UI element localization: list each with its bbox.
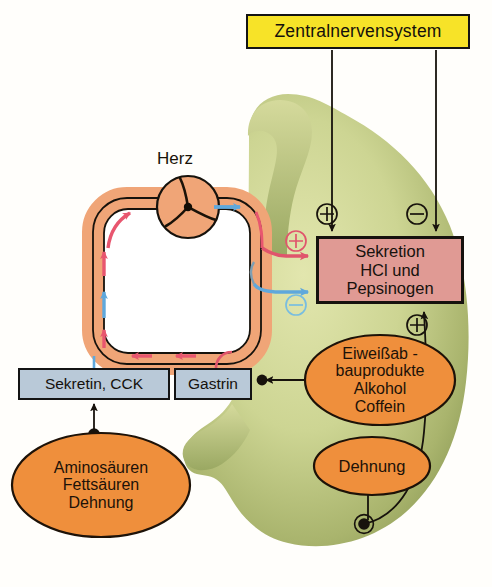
ellipse-eiweissabbau — [305, 335, 455, 425]
gastrin-label: Gastrin — [188, 375, 238, 393]
secretion-line-2: HCl und — [360, 261, 420, 279]
ellipse-dehnung — [314, 437, 430, 495]
cns-box[interactable]: Zentralnervensystem — [246, 14, 470, 49]
heart-symbol — [157, 176, 219, 238]
sign-cns-plus — [317, 204, 337, 224]
secretion-box[interactable]: Sekretion HCl und Pepsinogen — [316, 236, 464, 304]
sekretin-cck-box[interactable]: Sekretin, CCK — [18, 368, 170, 400]
cns-label: Zentralnervensystem — [274, 21, 441, 42]
ellipse-aminosaeuren — [12, 433, 190, 537]
secretion-line-3: Pepsinogen — [346, 279, 433, 297]
secretion-line-1: Sekretion — [355, 242, 425, 260]
gastrin-box[interactable]: Gastrin — [174, 368, 252, 400]
sign-local-plus — [407, 315, 427, 335]
sign-gastrin-plus — [286, 231, 306, 251]
diagram-canvas: Zentralnervensystem Sekretion HCl und Pe… — [0, 0, 492, 587]
sekretin-cck-label: Sekretin, CCK — [45, 375, 143, 393]
